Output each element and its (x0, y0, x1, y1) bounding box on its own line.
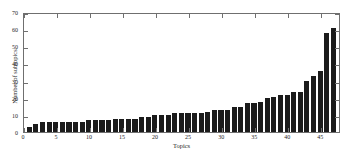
bar (113, 119, 118, 132)
plot-area (23, 13, 340, 133)
bar (47, 122, 52, 132)
bar (291, 92, 296, 132)
bar-slot (105, 14, 112, 132)
y-axis-tick (24, 83, 28, 84)
y-axis-tick-label: 70 (12, 10, 18, 16)
bar-series (24, 14, 339, 132)
bar (298, 92, 303, 132)
x-axis-tick-label: 10 (86, 134, 92, 140)
bar-chart-figure: 010203040506070 Number of subtopics 0510… (0, 0, 347, 160)
y-axis-tick (335, 48, 339, 49)
bar-slot (317, 14, 324, 132)
x-axis-tick-label: 15 (119, 134, 125, 140)
x-axis-tick (222, 128, 223, 132)
bar (132, 119, 137, 132)
bar-slot (284, 14, 291, 132)
bar-slot (125, 14, 132, 132)
bar-slot (310, 14, 317, 132)
bar (93, 120, 98, 132)
bar (271, 97, 276, 132)
x-axis-tick-label: 30 (218, 134, 224, 140)
bar (278, 95, 283, 132)
x-axis-tick-label: 40 (284, 134, 290, 140)
bar-slot (257, 14, 264, 132)
bar-slot (185, 14, 192, 132)
x-axis-tick-label: 25 (185, 134, 191, 140)
y-axis-tick (335, 117, 339, 118)
bar (60, 122, 65, 132)
x-axis-tick (189, 14, 190, 18)
y-axis-tick-label: 60 (12, 27, 18, 33)
bar-slot (52, 14, 59, 132)
y-axis-tick (335, 100, 339, 101)
bar-slot (152, 14, 159, 132)
bar (159, 115, 164, 132)
y-axis-tick (24, 100, 28, 101)
bar-slot (132, 14, 139, 132)
bar-slot (290, 14, 297, 132)
bar (212, 110, 217, 132)
bar-slot (165, 14, 172, 132)
x-axis-tick (255, 128, 256, 132)
x-axis-tick (156, 128, 157, 132)
bar (245, 103, 250, 132)
bar (106, 120, 111, 132)
bar (179, 113, 184, 132)
bar (172, 113, 177, 132)
bar (27, 127, 32, 132)
y-axis-title: Number of subtopics (11, 37, 18, 117)
bar-slot (92, 14, 99, 132)
bar-slot (112, 14, 119, 132)
bar (232, 107, 237, 132)
x-axis-tick-label: 20 (152, 134, 158, 140)
bar-slot (277, 14, 284, 132)
bar (99, 120, 104, 132)
bar-slot (231, 14, 238, 132)
bar-slot (264, 14, 271, 132)
bar-slot (191, 14, 198, 132)
bar-slot (178, 14, 185, 132)
x-axis-tick (288, 14, 289, 18)
y-axis-tick-label: 0 (15, 130, 18, 136)
x-axis-tick (90, 128, 91, 132)
bar (80, 122, 85, 132)
bar (324, 33, 329, 132)
bar (304, 81, 309, 132)
bar-slot (204, 14, 211, 132)
x-axis-tick (24, 128, 25, 132)
bar (205, 112, 210, 132)
bar-slot (244, 14, 251, 132)
bar-slot (218, 14, 225, 132)
bar-slot (224, 14, 231, 132)
x-axis-tick-label: 35 (251, 134, 257, 140)
bar (285, 95, 290, 132)
x-axis-tick (123, 14, 124, 18)
bar-slot (99, 14, 106, 132)
x-axis-title: Topics (23, 142, 340, 149)
x-axis-tick (123, 128, 124, 132)
bar-slot (211, 14, 218, 132)
bar (265, 98, 270, 132)
x-axis-tick (321, 14, 322, 18)
x-axis-tick (57, 128, 58, 132)
bar-slot (119, 14, 126, 132)
bar-slot (145, 14, 152, 132)
bar-slot (171, 14, 178, 132)
bar-slot (46, 14, 53, 132)
bar (199, 113, 204, 132)
bar (225, 110, 230, 132)
bar-slot (39, 14, 46, 132)
bar-slot (79, 14, 86, 132)
bar-slot (138, 14, 145, 132)
bar (192, 113, 197, 132)
bar (33, 124, 38, 132)
bar-slot (238, 14, 245, 132)
bar-slot (251, 14, 258, 132)
bar-slot (158, 14, 165, 132)
bar-slot (59, 14, 66, 132)
bar (238, 107, 243, 132)
x-axis-tick (222, 14, 223, 18)
x-axis-tick (24, 14, 25, 18)
bar-slot (323, 14, 330, 132)
y-axis-tick (335, 31, 339, 32)
